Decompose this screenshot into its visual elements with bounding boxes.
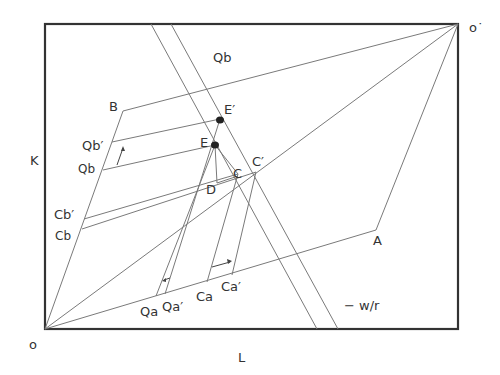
isoquant-qa-label: Qa <box>140 304 158 319</box>
line-e-to-d <box>215 145 217 183</box>
point-e-dot <box>211 142 219 149</box>
point-c-prime-label: C′ <box>252 154 264 169</box>
isoquant-ca-prime-label: Ca′ <box>221 279 241 294</box>
point-e-prime-label: E′ <box>224 102 235 117</box>
edgeworth-box-diagram: K L o o˙ B A E′ E C C′ D Qb Qb′ Qb Cb′ C… <box>0 0 500 375</box>
diagonal-o-oprime <box>45 24 458 329</box>
ray-oprime-to-b <box>123 24 458 111</box>
isoquant-ca-prime <box>232 172 256 275</box>
axis-label-k: K <box>30 153 39 168</box>
isoquant-qb-prime-label: Qb′ <box>82 138 103 153</box>
isoquant-cb-label: Cb <box>55 229 71 243</box>
arrow-qb-shift-icon <box>117 146 125 165</box>
origin-label: o <box>29 337 37 352</box>
point-d-label: D <box>206 182 216 197</box>
arrow-ca-shift-icon <box>212 259 232 267</box>
isoquant-qb-top-label: Qb <box>213 50 231 65</box>
axis-label-l: L <box>238 350 246 365</box>
point-c-label: C <box>233 166 242 181</box>
price-ratio-label: − w/r <box>344 298 380 313</box>
isoquant-cb-prime-label: Cb′ <box>54 207 74 222</box>
point-e-prime-dot <box>216 117 224 124</box>
ray-o-to-a <box>45 230 376 329</box>
point-e-label: E <box>200 135 208 150</box>
point-b-label: B <box>109 99 118 114</box>
isoquant-ca-label: Ca <box>196 289 213 304</box>
isoquant-qa-prime-label: Qa′ <box>162 299 183 314</box>
point-a-label: A <box>373 233 382 248</box>
isoquant-qa <box>156 145 215 296</box>
origin-prime-label: o˙ <box>469 20 483 35</box>
isoquant-qb-label: Qb <box>78 162 95 176</box>
